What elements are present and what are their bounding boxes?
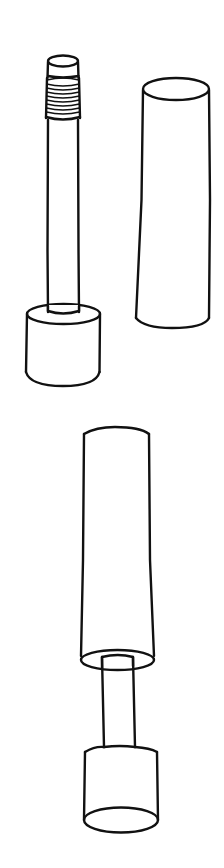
- tube-left-edge: [136, 90, 143, 318]
- rod-right-edge: [78, 120, 79, 312]
- assembly: [81, 427, 158, 833]
- tube-bottom: [136, 318, 209, 328]
- tube-right-edge: [209, 90, 210, 318]
- rod-base: [26, 304, 100, 386]
- figure-drawing: [0, 0, 224, 868]
- thread-section: [46, 78, 80, 120]
- assembly-rod: [102, 653, 135, 748]
- assembly-sleeve: [81, 427, 154, 670]
- assembly-base: [84, 746, 158, 833]
- rod-left-edge: [48, 120, 49, 312]
- sleeve-tube: [136, 78, 210, 328]
- tube-top-opening: [143, 78, 209, 100]
- threaded-rod: [26, 56, 100, 387]
- figure-canvas: Line drawing of a rod with threaded tip …: [0, 0, 224, 868]
- rod-top-cap: [48, 56, 79, 79]
